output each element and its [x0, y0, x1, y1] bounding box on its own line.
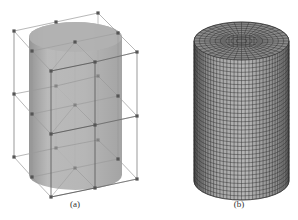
- panel-b-mesh-cylinder: [194, 22, 289, 200]
- control-point: [49, 195, 52, 198]
- control-point: [116, 157, 119, 160]
- control-point: [135, 114, 138, 117]
- panel-b-label: (b): [224, 199, 254, 209]
- control-point: [116, 94, 119, 97]
- control-point: [30, 49, 33, 52]
- control-point: [49, 69, 52, 72]
- control-point: [96, 138, 99, 141]
- panel-a-lattice-cylinder: [12, 11, 138, 198]
- control-point: [12, 29, 15, 32]
- control-point: [12, 92, 15, 95]
- control-point: [96, 11, 99, 14]
- control-point: [73, 103, 76, 106]
- control-point: [54, 20, 57, 23]
- control-point: [96, 74, 99, 77]
- control-point: [54, 84, 57, 87]
- control-point: [54, 146, 57, 149]
- cylinder-top-face: [29, 22, 122, 52]
- control-point: [93, 186, 96, 189]
- control-point: [93, 60, 96, 63]
- control-point: [135, 50, 138, 53]
- control-point: [135, 177, 138, 180]
- control-point: [93, 123, 96, 126]
- panel-a-label: (a): [60, 199, 90, 209]
- control-point: [73, 166, 76, 169]
- control-point: [73, 40, 76, 43]
- control-point: [116, 31, 119, 34]
- figure-canvas: [0, 0, 298, 220]
- control-point: [49, 132, 52, 135]
- control-point: [30, 175, 33, 178]
- control-point: [30, 112, 33, 115]
- control-point: [12, 155, 15, 158]
